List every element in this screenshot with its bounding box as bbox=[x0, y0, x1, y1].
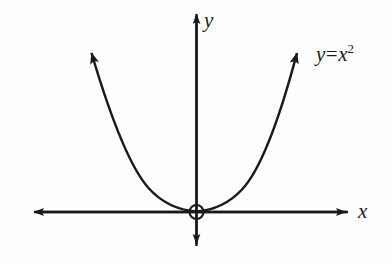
equation-exponent: 2 bbox=[348, 41, 355, 56]
equation-lhs: y bbox=[316, 42, 325, 66]
parabola-right-branch bbox=[197, 53, 298, 212]
equation-operator: = bbox=[325, 42, 338, 66]
coordinate-plane-svg bbox=[0, 0, 392, 264]
graph-figure: y x y=x2 bbox=[0, 0, 392, 264]
x-axis-label: x bbox=[358, 201, 367, 222]
parabola-left-branch bbox=[92, 53, 197, 212]
equation-base: x bbox=[338, 42, 347, 66]
equation-label: y=x2 bbox=[316, 44, 354, 65]
y-axis-label: y bbox=[204, 10, 213, 31]
